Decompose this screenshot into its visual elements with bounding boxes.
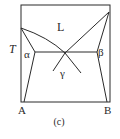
alpha-phase-boundary [21, 28, 35, 102]
temperature-axis-label: T [9, 43, 16, 55]
phase-diagram: L T α β γ A B (c) [0, 0, 120, 139]
component-a-label: A [18, 105, 26, 116]
alpha-phase-label: α [24, 49, 30, 60]
liquidus-left-curve [21, 28, 81, 73]
figure-caption: (c) [53, 117, 64, 127]
liquid-phase-label: L [57, 21, 64, 33]
gamma-phase-label: γ [60, 68, 65, 79]
beta-phase-label: β [98, 47, 104, 58]
component-b-label: B [104, 105, 111, 116]
